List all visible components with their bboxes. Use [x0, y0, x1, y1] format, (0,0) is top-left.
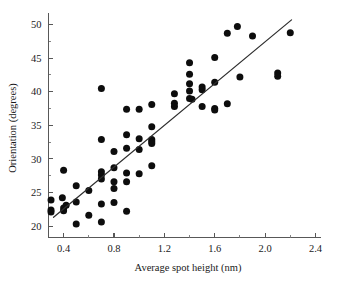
plot-svg: 0.40.81.21.62.02.420253035404550 Average…	[0, 0, 339, 283]
data-point	[186, 59, 193, 66]
x-tick-label: 0.4	[57, 243, 71, 254]
x-tick-label: 1.6	[208, 243, 221, 254]
x-tick-label: 2.0	[259, 243, 272, 254]
data-point	[73, 198, 80, 205]
x-tick-label: 1.2	[158, 243, 171, 254]
data-point	[236, 73, 243, 80]
data-point	[123, 145, 130, 152]
data-point	[123, 208, 130, 215]
data-point	[98, 200, 105, 207]
data-point	[59, 194, 66, 201]
data-point	[110, 199, 117, 206]
data-point	[136, 135, 143, 142]
data-point	[186, 71, 193, 78]
data-point	[110, 185, 117, 192]
data-point	[171, 90, 178, 97]
data-point	[171, 103, 178, 110]
data-point	[148, 162, 155, 169]
data-point	[73, 182, 80, 189]
data-point	[234, 23, 241, 30]
data-point	[110, 178, 117, 185]
data-point	[123, 178, 130, 185]
data-point	[211, 54, 218, 61]
data-point	[123, 131, 130, 138]
y-axis-label: Orientation (degrees)	[7, 83, 19, 173]
tick-labels: 0.40.81.21.62.02.420253035404550	[31, 19, 323, 253]
data-point	[110, 148, 117, 155]
data-point	[48, 196, 55, 203]
data-point	[186, 88, 193, 95]
data-point	[224, 100, 231, 107]
y-tick-label: 45	[31, 53, 42, 64]
data-point	[98, 219, 105, 226]
data-point	[60, 167, 67, 174]
x-tick-label: 2.4	[309, 243, 323, 254]
data-point	[199, 103, 206, 110]
data-point	[98, 136, 105, 143]
data-point	[98, 85, 105, 92]
y-tick-label: 20	[31, 221, 42, 232]
tick-marks	[49, 25, 316, 238]
y-tick-label: 30	[31, 154, 42, 165]
trend-line	[54, 20, 292, 217]
y-tick-label: 25	[31, 187, 42, 198]
data-point	[48, 208, 55, 215]
data-point	[148, 140, 155, 147]
x-tick-label: 0.8	[107, 243, 120, 254]
data-point	[249, 33, 256, 40]
x-axis-label: Average spot height (nm)	[135, 262, 242, 274]
data-point	[148, 101, 155, 108]
scatter-chart-figure: 0.40.81.21.62.02.420253035404550 Average…	[0, 0, 339, 283]
data-point	[287, 29, 294, 36]
data-point	[224, 30, 231, 37]
data-point	[123, 170, 130, 177]
data-point	[186, 80, 193, 87]
data-point	[136, 170, 143, 177]
data-point	[85, 212, 92, 219]
data-points	[48, 23, 294, 227]
linear-fit-line	[54, 20, 292, 217]
data-point	[274, 73, 281, 80]
y-tick-label: 50	[31, 19, 42, 30]
y-tick-label: 35	[31, 120, 42, 131]
data-point	[148, 123, 155, 130]
data-point	[73, 221, 80, 228]
axes	[49, 13, 321, 238]
data-point	[189, 96, 196, 103]
y-tick-label: 40	[31, 86, 42, 97]
data-point	[123, 106, 130, 113]
data-point	[211, 106, 218, 113]
data-point	[136, 106, 143, 113]
